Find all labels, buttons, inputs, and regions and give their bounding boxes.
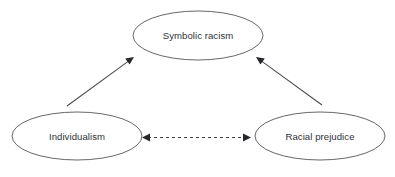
diagram-canvas: Symbolic racism Individualism Racial pre… — [0, 0, 395, 177]
node-label-racial-prejudice: Racial prejudice — [285, 131, 354, 142]
arrowhead-up-right-icon — [125, 57, 134, 64]
edge-racial-prejudice-to-symbolic-racism — [256, 57, 322, 105]
edge-individualism-racial-prejudice-correlation — [142, 134, 251, 142]
node-racial-prejudice[interactable]: Racial prejudice — [255, 112, 385, 160]
node-individualism[interactable]: Individualism — [12, 112, 142, 160]
node-label-symbolic-racism: Symbolic racism — [163, 30, 234, 41]
arrowhead-up-left-icon — [256, 57, 265, 64]
path-diagram: Symbolic racism Individualism Racial pre… — [0, 0, 395, 177]
edge-line — [67, 60, 131, 106]
edge-individualism-to-symbolic-racism — [67, 57, 134, 106]
edge-line — [260, 60, 323, 105]
node-label-individualism: Individualism — [49, 131, 105, 142]
arrowhead-right-icon — [243, 134, 251, 142]
arrowhead-left-icon — [142, 134, 150, 142]
node-symbolic-racism[interactable]: Symbolic racism — [133, 11, 263, 60]
